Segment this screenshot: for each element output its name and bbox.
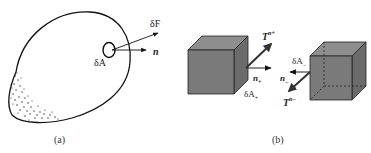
right-cube	[310, 42, 366, 100]
area-label: δA	[94, 57, 107, 68]
left-cube	[188, 36, 248, 94]
area-plus-label: δA+	[244, 89, 259, 101]
force-label: δF	[150, 18, 161, 29]
normal-minus-label: n−	[280, 73, 289, 85]
caption-b: (b)	[272, 134, 284, 146]
force-arrow	[112, 33, 158, 50]
figure-canvas: δF n δA (a) Tn+ n+ δA+	[0, 0, 371, 153]
stipple-region	[10, 72, 58, 120]
traction-plus-arrow	[246, 44, 271, 68]
right-cube-front	[310, 56, 352, 100]
panel-a: δF n δA (a)	[9, 12, 161, 146]
traction-minus-label: Tn−	[283, 96, 296, 108]
normal-label: n	[153, 46, 159, 57]
area-minus-label: δA−	[292, 56, 307, 68]
caption-a: (a)	[54, 134, 65, 146]
traction-plus-label: Tn+	[262, 30, 275, 42]
traction-minus-arrow	[289, 72, 310, 91]
panel-b: Tn+ n+ δA+ δA− n− Tn− (b)	[188, 30, 366, 146]
normal-plus-label: n+	[253, 73, 262, 85]
left-cube-front	[188, 50, 234, 94]
body-outline	[9, 12, 130, 123]
